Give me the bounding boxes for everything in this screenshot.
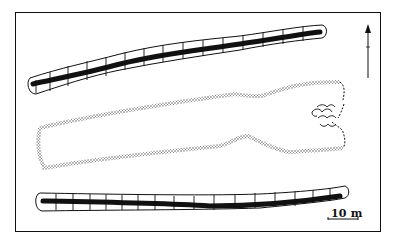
south-ditch xyxy=(36,186,349,211)
north-ditch xyxy=(28,25,327,94)
north-arrow-icon xyxy=(365,24,371,78)
long-mound xyxy=(38,82,345,168)
scale-label: 10 m xyxy=(331,207,363,220)
